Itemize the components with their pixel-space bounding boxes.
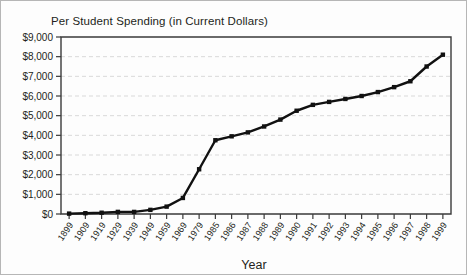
y-tick-label: $4,000 xyxy=(22,130,53,141)
data-point-marker xyxy=(408,79,412,83)
y-tick-label: $3,000 xyxy=(22,150,53,161)
ytick-labels-group: $0$1,000$2,000$3,000$4,000$5,000$6,000$7… xyxy=(22,32,53,220)
gridlines-group xyxy=(61,57,451,195)
x-tick-label: 1995 xyxy=(364,220,384,242)
y-tick-label: $5,000 xyxy=(22,110,53,121)
data-point-marker xyxy=(359,94,363,98)
y-tick-label: $6,000 xyxy=(22,91,53,102)
x-tick-label: 1998 xyxy=(413,220,433,242)
x-tick-label: 1992 xyxy=(316,220,336,242)
data-point-marker xyxy=(327,100,331,104)
x-tick-label: 1991 xyxy=(299,220,319,242)
x-tick-label: 1989 xyxy=(267,220,287,242)
y-tick-label: $1,000 xyxy=(22,189,53,200)
x-tick-label: 1979 xyxy=(186,220,206,242)
x-tick-label: 1999 xyxy=(429,220,449,242)
x-tick-label: 1959 xyxy=(153,220,173,242)
data-point-marker xyxy=(246,130,250,134)
x-tick-label: 1996 xyxy=(381,220,401,242)
data-point-marker xyxy=(181,196,185,200)
ytick-marks-group xyxy=(56,37,61,214)
data-point-marker xyxy=(392,85,396,89)
marker-group xyxy=(67,53,445,216)
x-tick-label: 1949 xyxy=(137,220,157,242)
y-tick-label: $2,000 xyxy=(22,169,53,180)
x-tick-label: 1985 xyxy=(202,220,222,242)
data-point-marker xyxy=(213,138,217,142)
x-tick-label: 1994 xyxy=(348,220,368,242)
data-point-marker xyxy=(343,97,347,101)
y-tick-label: $9,000 xyxy=(22,32,53,43)
xtick-marks-group xyxy=(69,214,443,219)
data-point-marker xyxy=(278,117,282,121)
data-point-marker xyxy=(99,211,103,215)
x-tick-label: 1997 xyxy=(397,220,417,242)
plot-frame-group xyxy=(61,37,451,214)
x-tick-label: 1899 xyxy=(56,220,76,242)
line-chart-plot: $0$1,000$2,000$3,000$4,000$5,000$6,000$7… xyxy=(1,1,467,275)
x-tick-label: 1986 xyxy=(218,220,238,242)
x-tick-label: 1969 xyxy=(169,220,189,242)
data-point-marker xyxy=(164,204,168,208)
y-tick-label: $7,000 xyxy=(22,71,53,82)
series-group xyxy=(69,55,443,214)
data-point-marker xyxy=(262,124,266,128)
data-point-marker xyxy=(67,211,71,215)
xtick-labels-group: 1899190919191929193919491959196919791985… xyxy=(56,220,449,242)
data-point-marker xyxy=(376,90,380,94)
data-point-marker xyxy=(132,210,136,214)
data-point-marker xyxy=(424,64,428,68)
x-tick-label: 1990 xyxy=(283,220,303,242)
x-tick-label: 1929 xyxy=(104,220,124,242)
plot-frame xyxy=(61,37,451,214)
y-tick-label: $8,000 xyxy=(22,51,53,62)
x-axis-title: Year xyxy=(241,258,266,272)
chart-figure: Per Student Spending (in Current Dollars… xyxy=(0,0,467,275)
data-point-marker xyxy=(116,210,120,214)
x-tick-label: 1987 xyxy=(234,220,254,242)
series-line-spending xyxy=(69,55,443,214)
x-tick-label: 1988 xyxy=(251,220,271,242)
x-tick-label: 1993 xyxy=(332,220,352,242)
data-point-marker xyxy=(229,134,233,138)
y-tick-label: $0 xyxy=(42,209,54,220)
data-point-marker xyxy=(311,103,315,107)
x-tick-label: 1919 xyxy=(88,220,108,242)
data-point-marker xyxy=(148,208,152,212)
data-point-marker xyxy=(294,109,298,113)
data-point-marker xyxy=(197,167,201,171)
x-tick-label: 1909 xyxy=(72,220,92,242)
x-tick-label: 1939 xyxy=(121,220,141,242)
data-point-marker xyxy=(83,211,87,215)
data-point-marker xyxy=(441,53,445,57)
